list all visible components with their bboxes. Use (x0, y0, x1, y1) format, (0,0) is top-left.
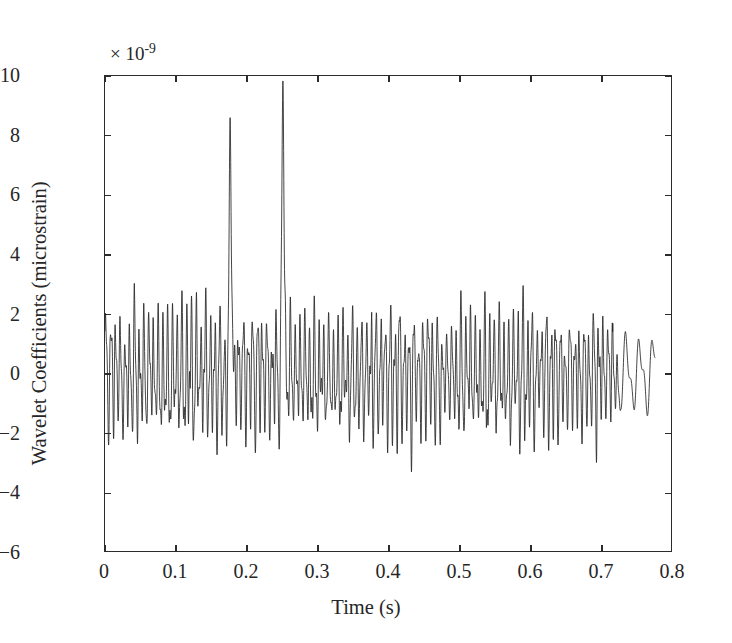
x-axis-tick-mark (246, 545, 247, 551)
y-axis-tick-mark (105, 314, 111, 315)
x-axis-tick-mark-top (530, 76, 531, 82)
y-axis-tick-mark (105, 75, 111, 76)
y-axis-tick-label: −2 (0, 423, 20, 443)
x-axis-tick-mark-top (459, 76, 460, 82)
y-axis-tick-label: 10 (0, 65, 20, 85)
y-axis-tick-label: −4 (0, 482, 20, 502)
x-axis-title: Time (s) (0, 597, 732, 618)
x-axis-tick-mark-top (601, 76, 602, 82)
x-axis-tick-label: 0.4 (376, 561, 401, 581)
y-axis-tick-mark-right (665, 314, 671, 315)
x-axis-tick-mark-top (246, 76, 247, 82)
x-axis-tick-mark (317, 545, 318, 551)
x-axis-tick-label: 0.6 (518, 561, 543, 581)
x-axis-tick-label: 0.8 (660, 561, 685, 581)
y-axis-tick-mark-right (665, 373, 671, 374)
y-axis-tick-mark (105, 373, 111, 374)
y-axis-tick-mark (105, 254, 111, 255)
x-axis-tick-mark (459, 545, 460, 551)
y-axis-multiplier-label: × 10-9 (110, 44, 156, 63)
y-axis-multiplier-base: × 10 (110, 43, 144, 64)
x-axis-tick-mark (175, 545, 176, 551)
y-axis-tick-mark (105, 433, 111, 434)
y-axis-tick-label: −6 (0, 542, 20, 562)
y-axis-tick-mark-right (665, 135, 671, 136)
y-axis-title: Wavelet Coefficients (microstrain) (29, 108, 50, 538)
y-axis-multiplier-exponent: -9 (144, 41, 155, 56)
y-axis-tick-mark-right (665, 195, 671, 196)
x-axis-tick-mark (601, 545, 602, 551)
y-axis-tick-mark (105, 195, 111, 196)
x-axis-tick-mark-top (317, 76, 318, 82)
x-axis-tick-label: 0.5 (447, 561, 472, 581)
x-axis-tick-mark (388, 545, 389, 551)
x-axis-tick-mark-top (388, 76, 389, 82)
x-axis-tick-label: 0.2 (234, 561, 259, 581)
x-axis-tick-label: 0 (99, 561, 109, 581)
y-axis-tick-mark (105, 135, 111, 136)
plot-area (104, 75, 672, 552)
y-axis-tick-label: 8 (10, 125, 20, 145)
y-axis-tick-label: 4 (10, 244, 20, 264)
x-axis-tick-mark-top (175, 76, 176, 82)
x-axis-tick-mark (104, 545, 105, 551)
y-axis-tick-label: 6 (10, 184, 20, 204)
x-axis-tick-mark (530, 545, 531, 551)
x-axis-tick-label: 0.3 (305, 561, 330, 581)
y-axis-tick-label: 2 (10, 304, 20, 324)
signal-plot (105, 76, 672, 552)
y-axis-tick-mark-right (665, 75, 671, 76)
waveform-line (105, 81, 655, 472)
y-axis-tick-label: 0 (10, 363, 20, 383)
y-axis-tick-mark (105, 493, 111, 494)
x-axis-tick-mark-top (104, 76, 105, 82)
wavelet-coefficients-figure: × 10-9 Wavelet Coefficients (microstrain… (0, 0, 732, 643)
y-axis-tick-mark-right (665, 433, 671, 434)
y-axis-tick-mark-right (665, 254, 671, 255)
y-axis-tick-mark-right (665, 493, 671, 494)
x-axis-tick-label: 0.1 (163, 561, 188, 581)
x-axis-tick-label: 0.7 (589, 561, 614, 581)
